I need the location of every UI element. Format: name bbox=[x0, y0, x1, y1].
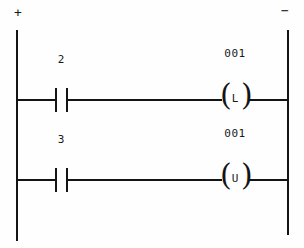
contact-address-label: 3 bbox=[54, 134, 68, 145]
left-power-rail bbox=[16, 30, 18, 241]
ladder-diagram-canvas: + − 2 ( ) L 001 3 ( ) bbox=[0, 0, 304, 248]
rung-wire-output bbox=[248, 179, 289, 181]
positive-polarity-label: + bbox=[14, 6, 22, 19]
rung-wire-middle bbox=[67, 179, 222, 181]
no-contact-icon[interactable]: 3 bbox=[54, 168, 68, 192]
contact-bar-left bbox=[55, 168, 57, 192]
rung-wire-middle bbox=[67, 99, 222, 101]
rung-wire-input bbox=[16, 179, 56, 181]
latch-coil-icon[interactable]: ( ) L 001 bbox=[220, 85, 250, 115]
contact-bar-right bbox=[66, 88, 68, 112]
rung-wire-output bbox=[248, 99, 289, 101]
coil-type-letter: L bbox=[220, 93, 250, 104]
unlatch-coil-icon[interactable]: ( ) U 001 bbox=[220, 165, 250, 195]
no-contact-icon[interactable]: 2 bbox=[54, 88, 68, 112]
coil-address-label: 001 bbox=[220, 128, 250, 139]
right-power-rail bbox=[287, 30, 289, 235]
contact-bar-left bbox=[55, 88, 57, 112]
negative-polarity-label: − bbox=[281, 4, 289, 17]
coil-type-letter: U bbox=[220, 173, 250, 184]
contact-bar-right bbox=[66, 168, 68, 192]
contact-address-label: 2 bbox=[54, 54, 68, 65]
coil-address-label: 001 bbox=[220, 48, 250, 59]
rung-wire-input bbox=[16, 99, 56, 101]
